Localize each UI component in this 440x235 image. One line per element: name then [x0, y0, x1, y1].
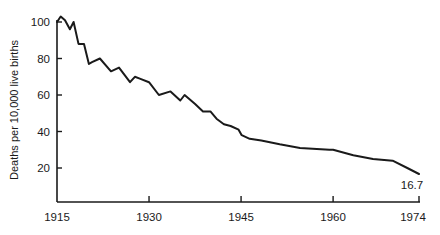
x-tick-label: 1930	[136, 211, 162, 223]
mortality-series-line	[57, 17, 419, 175]
x-tick-label: 1960	[320, 211, 346, 223]
infant-mortality-line-chart: 20406080100 19151930194519601974 Deaths …	[0, 0, 440, 235]
y-tick-label: 20	[37, 162, 50, 174]
y-tick-label: 80	[37, 53, 50, 65]
y-tick-label: 40	[37, 126, 50, 138]
y-tick-label: 100	[31, 16, 50, 28]
x-tick-label: 1974	[400, 211, 426, 223]
x-tick-label: 1945	[228, 211, 254, 223]
y-axis: 20406080100	[31, 16, 62, 202]
x-tick-label: 1915	[44, 211, 70, 223]
x-axis: 19151930194519601974	[44, 196, 426, 223]
y-tick-label: 60	[37, 89, 50, 101]
end-value-annotation: 16.7	[401, 179, 423, 191]
y-axis-title: Deaths per 10,000 live births	[8, 39, 20, 180]
x-ticks: 19151930194519601974	[44, 196, 426, 223]
